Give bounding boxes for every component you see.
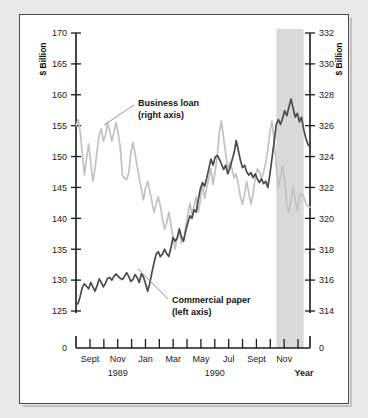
- svg-text:Sept: Sept: [81, 354, 100, 364]
- svg-text:Year: Year: [294, 368, 314, 378]
- svg-text:0: 0: [62, 343, 67, 353]
- annotation-leader-line: [138, 269, 168, 299]
- svg-text:145: 145: [52, 183, 67, 193]
- line-chart: 1701651601551501451401351301250 $ Billio…: [20, 15, 348, 403]
- svg-text:Jul: Jul: [223, 354, 235, 364]
- svg-text:0: 0: [319, 343, 324, 353]
- svg-text:125: 125: [52, 306, 67, 316]
- svg-text:170: 170: [52, 28, 67, 38]
- svg-text:1990: 1990: [205, 368, 225, 378]
- svg-text:324: 324: [319, 152, 334, 162]
- annotation-commercial-paper: Commercial paper (left axis): [138, 269, 251, 317]
- x-axis-ticks: [90, 339, 298, 348]
- svg-text:320: 320: [319, 214, 334, 224]
- svg-text:135: 135: [52, 245, 67, 255]
- chart-figure-panel: 1701651601551501451401351301250 $ Billio…: [19, 14, 349, 404]
- svg-text:140: 140: [52, 214, 67, 224]
- shaded-recession-band: [276, 29, 303, 348]
- svg-text:160: 160: [52, 90, 67, 100]
- svg-text:Nov: Nov: [276, 354, 293, 364]
- svg-text:Jan: Jan: [138, 354, 153, 364]
- svg-text:Sept: Sept: [247, 354, 266, 364]
- svg-text:316: 316: [319, 275, 334, 285]
- right-axis: 3323303283263243223203183163140 $ Billio…: [305, 28, 344, 353]
- svg-text:155: 155: [52, 121, 67, 131]
- annotation-business-loan-line2: (right axis): [138, 110, 184, 120]
- left-axis: 1701651601551501451401351301250 $ Billio…: [38, 28, 81, 353]
- annotation-leader-line: [104, 105, 134, 125]
- svg-text:318: 318: [319, 245, 334, 255]
- right-axis-title: $ Billion: [334, 42, 344, 75]
- annotation-commercial-paper-line1: Commercial paper: [172, 295, 251, 305]
- left-axis-title: $ Billion: [38, 42, 48, 75]
- svg-text:150: 150: [52, 152, 67, 162]
- svg-text:332: 332: [319, 28, 334, 38]
- svg-text:Nov: Nov: [110, 354, 127, 364]
- svg-text:314: 314: [319, 306, 334, 316]
- svg-text:322: 322: [319, 183, 334, 193]
- annotation-commercial-paper-line2: (left axis): [172, 307, 212, 317]
- svg-text:326: 326: [319, 121, 334, 131]
- annotation-business-loan-line1: Business loan: [138, 98, 199, 108]
- x-axis-year-labels: 19891990Year: [108, 368, 314, 378]
- svg-text:130: 130: [52, 275, 67, 285]
- svg-text:165: 165: [52, 59, 67, 69]
- annotation-business-loan: Business loan (right axis): [104, 98, 199, 125]
- svg-text:May: May: [192, 354, 210, 364]
- series-line-commercial-paper: [76, 99, 310, 305]
- svg-text:Mar: Mar: [165, 354, 181, 364]
- svg-text:328: 328: [319, 90, 334, 100]
- svg-text:1989: 1989: [108, 368, 128, 378]
- x-axis-tick-labels: SeptNovJanMarMayJulSeptNov: [81, 354, 293, 364]
- svg-text:330: 330: [319, 59, 334, 69]
